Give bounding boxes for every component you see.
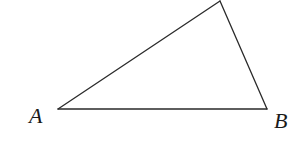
triangle [58,1,267,109]
edge-ca [58,1,220,109]
edge-bc [220,1,267,109]
vertex-label-b: B [274,108,287,133]
triangle-diagram: A B [0,0,302,152]
vertex-label-a: A [27,103,43,128]
